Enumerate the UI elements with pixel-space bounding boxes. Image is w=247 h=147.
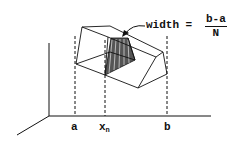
fraction-denominator: N [213, 27, 220, 39]
label-xn-base: x [99, 121, 106, 133]
width-fraction: b-a N [205, 14, 227, 39]
label-xn: xn [99, 122, 110, 133]
label-b: b [164, 122, 171, 133]
label-xn-sub: n [106, 126, 110, 134]
z-axis [17, 116, 49, 135]
fraction-numerator: b-a [205, 14, 227, 27]
width-label: width = [146, 20, 192, 31]
diagram-canvas: width = b-a N a xn b [0, 0, 247, 147]
label-a: a [71, 122, 78, 133]
